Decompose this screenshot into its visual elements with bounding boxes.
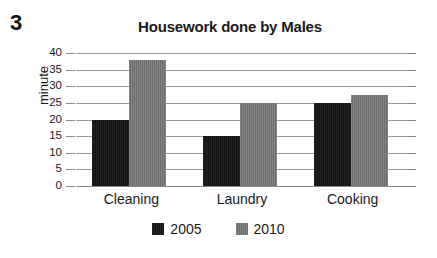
y-tick-label: 0	[36, 180, 62, 192]
y-tick-mark-right	[408, 169, 416, 170]
bar-chart-figure: 3 Housework done by Males minute 4035302…	[0, 0, 437, 258]
y-tick-label: 20	[36, 114, 62, 126]
y-tick-label: 40	[36, 47, 62, 59]
legend-item-2010: 2010	[236, 222, 285, 236]
bars-container	[76, 53, 408, 186]
gridline	[76, 186, 408, 187]
y-tick-label: 25	[36, 97, 62, 109]
y-tick-mark	[66, 136, 75, 137]
y-tick-mark	[66, 169, 75, 170]
legend-swatch-2010	[236, 223, 248, 235]
bar-cleaning-2005	[92, 120, 129, 187]
y-tick-label: 15	[36, 130, 62, 142]
legend-label-2010: 2010	[254, 222, 285, 236]
y-tick-mark	[66, 153, 75, 154]
bar-laundry-2010	[240, 103, 277, 186]
y-tick-label: 35	[36, 64, 62, 76]
y-tick-mark-right	[408, 103, 416, 104]
question-number: 3	[10, 12, 22, 34]
y-tick-mark-right	[408, 120, 416, 121]
bar-cooking-2005	[314, 103, 351, 186]
y-tick-mark-right	[408, 153, 416, 154]
bar-cleaning-2010	[129, 60, 166, 186]
y-tick-mark-right	[408, 136, 416, 137]
y-tick-mark	[66, 103, 75, 104]
y-tick-mark	[66, 86, 75, 87]
bar-laundry-2005	[203, 136, 240, 186]
y-tick-label: 5	[36, 163, 62, 175]
x-category-label-cleaning: Cleaning	[76, 191, 187, 207]
y-tick-mark	[66, 120, 75, 121]
y-tick-mark	[66, 186, 75, 187]
legend-swatch-2005	[152, 223, 164, 235]
y-tick-mark	[66, 70, 75, 71]
legend-label-2005: 2005	[170, 222, 201, 236]
y-tick-mark-right	[408, 70, 416, 71]
y-tick-mark-right	[408, 86, 416, 87]
y-tick-mark-right	[408, 186, 416, 187]
bar-cooking-2010	[351, 95, 388, 186]
x-category-label-laundry: Laundry	[187, 191, 298, 207]
legend-item-2005: 2005	[152, 222, 201, 236]
chart-legend: 20052010	[0, 222, 437, 236]
y-tick-label: 10	[36, 147, 62, 159]
y-tick-mark-right	[408, 53, 416, 54]
chart-title: Housework done by Males	[80, 18, 380, 35]
y-tick-mark	[66, 53, 75, 54]
x-category-label-cooking: Cooking	[297, 191, 408, 207]
y-tick-label: 30	[36, 80, 62, 92]
